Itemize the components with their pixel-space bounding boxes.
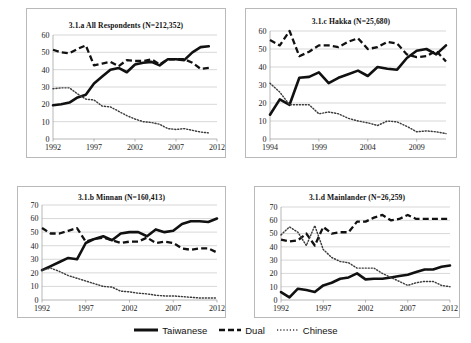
y-tick-label: 10: [42, 118, 50, 127]
y-tick-label: 20: [259, 99, 267, 108]
plot-area-d: 01020304050607019921997200220072012: [255, 187, 459, 317]
x-tick-label: 2009: [409, 143, 425, 152]
series-line-dual: [270, 31, 446, 62]
x-tick-label: 1992: [273, 304, 289, 313]
y-tick-label: 20: [31, 269, 39, 278]
legend-label-taiwanese: Taiwanese: [162, 325, 207, 336]
y-tick-label: 20: [270, 269, 278, 278]
y-tick-label: 60: [259, 27, 267, 36]
legend-item-dual: Dual: [218, 325, 265, 336]
y-tick-label: 70: [31, 201, 39, 210]
y-tick-label: 50: [270, 229, 278, 238]
series-line-taiwanese: [53, 46, 209, 105]
chart-panel-all-respondents: 3.1.a All Respondents (N=212,352) 010203…: [26, 8, 226, 158]
x-tick-label: 2007: [168, 143, 184, 152]
x-tick-label: 1994: [262, 143, 278, 152]
plot-area-c: 01020304050601994199920042009: [246, 9, 456, 157]
series-line-chinese: [53, 88, 209, 133]
legend-swatch-solid-icon: [133, 325, 159, 335]
x-tick-label: 2012: [209, 304, 225, 313]
y-tick-label: 50: [31, 228, 39, 237]
legend-item-chinese: Chinese: [276, 325, 338, 336]
y-tick-label: 70: [270, 203, 278, 212]
series-line-dual: [281, 215, 450, 246]
x-tick-label: 2007: [400, 304, 416, 313]
chart-panel-mainlander: 3.1.d Mainlander (N=26,259) 010203040506…: [254, 186, 460, 318]
x-tick-label: 1999: [311, 143, 327, 152]
y-tick-label: 40: [42, 66, 50, 75]
x-tick-label: 1992: [45, 143, 61, 152]
chart-panel-minnan: 3.1.b Minnan (N=160,413) 010203040506070…: [17, 186, 226, 318]
y-tick-label: 50: [259, 45, 267, 54]
y-tick-label: 60: [270, 216, 278, 225]
y-tick-label: 50: [42, 48, 50, 57]
plot-area-a: 010203040506019921997200220072012: [27, 9, 225, 157]
y-tick-label: 30: [42, 83, 50, 92]
legend-swatch-dotted-icon: [276, 325, 300, 335]
y-tick-label: 30: [31, 255, 39, 264]
x-tick-label: 1992: [34, 304, 50, 313]
y-tick-label: 10: [31, 282, 39, 291]
x-tick-label: 2012: [442, 304, 458, 313]
series-line-taiwanese: [42, 219, 217, 271]
chart-panel-hakka: 3.1.c Hakka (N=25,680) 01020304050601994…: [245, 8, 457, 158]
y-tick-label: 30: [259, 81, 267, 90]
x-tick-label: 1997: [86, 143, 102, 152]
y-tick-label: 60: [31, 214, 39, 223]
y-tick-label: 40: [270, 243, 278, 252]
x-tick-label: 2004: [360, 143, 376, 152]
legend-label-chinese: Chinese: [303, 325, 338, 336]
legend-swatch-dashed-icon: [218, 325, 242, 335]
x-tick-label: 2002: [127, 143, 143, 152]
y-tick-label: 60: [42, 31, 50, 40]
legend-label-dual: Dual: [245, 325, 265, 336]
y-tick-label: 30: [270, 256, 278, 265]
plot-area-b: 01020304050607019921997200220072012: [18, 187, 225, 317]
y-tick-label: 10: [259, 117, 267, 126]
x-tick-label: 2002: [358, 304, 374, 313]
x-tick-label: 2007: [165, 304, 181, 313]
multi-panel-line-chart: 3.1.a All Respondents (N=212,352) 010203…: [0, 0, 471, 343]
y-tick-label: 20: [42, 100, 50, 109]
series-line-chinese: [270, 83, 446, 133]
chart-legend: Taiwanese Dual Chinese: [0, 320, 471, 340]
x-tick-label: 2012: [209, 143, 225, 152]
x-tick-label: 1997: [315, 304, 331, 313]
y-tick-label: 10: [270, 283, 278, 292]
x-tick-label: 1997: [78, 304, 94, 313]
y-tick-label: 40: [259, 63, 267, 72]
x-tick-label: 2002: [122, 304, 138, 313]
y-tick-label: 40: [31, 242, 39, 251]
series-line-dual: [53, 45, 209, 68]
legend-item-taiwanese: Taiwanese: [133, 325, 207, 336]
